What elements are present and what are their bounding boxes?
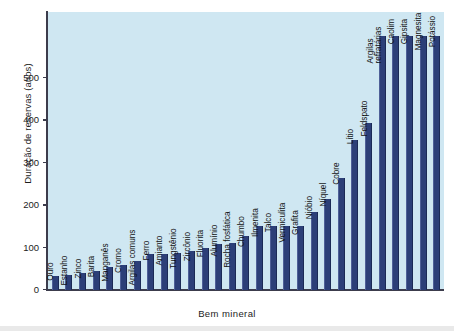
bar[interactable]	[365, 123, 372, 290]
bar-label: Ouro	[48, 263, 57, 281]
bar-label: Potássio	[429, 16, 438, 47]
bar-label: Grafita	[293, 210, 302, 235]
bar[interactable]	[338, 178, 345, 290]
bar-group[interactable]: Estanho	[63, 0, 77, 291]
bar-label: Níquel	[320, 183, 329, 207]
bar[interactable]	[311, 212, 318, 290]
y-tick-300: 300	[0, 157, 48, 168]
y-tick-0: 0	[0, 284, 48, 295]
y-tick-200: 200	[0, 199, 48, 210]
bar-label: Barita	[89, 256, 98, 277]
bar[interactable]	[297, 226, 304, 290]
bar-label: Amianto	[157, 235, 166, 265]
bar-group[interactable]: Ilmenita	[254, 0, 268, 291]
bar-group[interactable]: Zinco	[77, 0, 91, 291]
bar[interactable]	[351, 140, 358, 290]
bar-label: Zinco	[75, 259, 84, 279]
y-tick-500: 500	[0, 72, 48, 83]
bottom-strip	[0, 326, 454, 331]
bar-label: Magnesita	[415, 13, 424, 51]
bar-label: Estanho	[61, 256, 70, 286]
bar-label: Talco	[266, 213, 275, 232]
bar-group[interactable]: Talco	[267, 0, 281, 291]
bar-label: Chumbo	[238, 216, 247, 247]
bar[interactable]	[420, 36, 427, 290]
bar-label: Ferro	[143, 241, 152, 261]
bar-group[interactable]: Rocha fosfática	[227, 0, 241, 291]
bar-series: OuroEstanhoZincoBaritaManganêsCromoArgil…	[48, 0, 444, 291]
bar-group[interactable]: Vermiculita	[281, 0, 295, 291]
bar-group[interactable]: Níquel	[322, 0, 336, 291]
bar-label: Rocha fosfática	[225, 211, 234, 267]
bar-label: Feldspato	[361, 101, 370, 137]
bar[interactable]	[406, 36, 413, 290]
bar-label: Manganês	[102, 244, 111, 282]
bar[interactable]	[270, 226, 277, 290]
bar-group[interactable]: Lítio	[349, 0, 363, 291]
bar-group[interactable]: Chumbo	[240, 0, 254, 291]
bar-label: Cobre	[334, 162, 343, 184]
bar-label: Gipsita	[402, 19, 411, 44]
bar-label: Argilasrefratárias	[367, 0, 383, 64]
bar[interactable]	[324, 199, 331, 290]
bar-label: Zircônio	[184, 232, 193, 261]
bar[interactable]	[379, 36, 386, 290]
bar-label: Vermiculita	[279, 202, 288, 242]
bar-group[interactable]: Cobre	[336, 0, 350, 291]
bar[interactable]	[433, 36, 440, 290]
bar-group[interactable]: Ouro	[50, 0, 64, 291]
bar-label: Argilas comuns	[129, 229, 138, 285]
bar-label: Fluorita	[198, 230, 207, 257]
bar-group[interactable]: Nióbio	[308, 0, 322, 291]
bar[interactable]	[392, 36, 399, 290]
y-tick-100: 100	[0, 242, 48, 253]
bar-group[interactable]: Grafita	[295, 0, 309, 291]
bar-label: Lítio	[347, 129, 356, 144]
chart-figure: Duração de reservas (anos) 0100200300400…	[0, 0, 454, 331]
bar-group[interactable]: Potássio	[431, 0, 445, 291]
bar-label: Nióbio	[306, 196, 315, 219]
y-tick-400: 400	[0, 114, 48, 125]
bar-label: Alumínio	[211, 224, 220, 256]
bar-label: Caolim	[388, 19, 397, 44]
bar-label: Cromo	[116, 248, 125, 273]
bar-label: Tungstênio	[170, 229, 179, 269]
bar-label: Ilmenita	[252, 208, 261, 237]
x-axis-title: Bem mineral	[0, 308, 454, 319]
